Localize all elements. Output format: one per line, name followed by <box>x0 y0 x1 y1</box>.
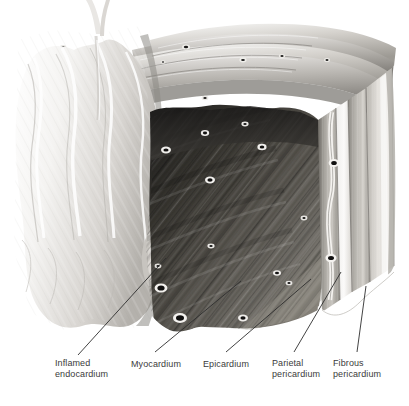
label-inflamed-endocardium: Inflamed endocardium <box>55 358 108 380</box>
label-fibrous-pericardium: Fibrous pericardium <box>333 358 381 380</box>
heart-wall-layers-figure: Inflamed endocardium Myocardium Epicardi… <box>0 0 409 406</box>
myocardium-region <box>140 92 340 347</box>
label-myocardium: Myocardium <box>131 359 181 370</box>
label-epicardium: Epicardium <box>203 359 249 370</box>
label-parietal-pericardium: Parietal pericardium <box>272 358 320 380</box>
illustration-artwork <box>0 0 409 406</box>
